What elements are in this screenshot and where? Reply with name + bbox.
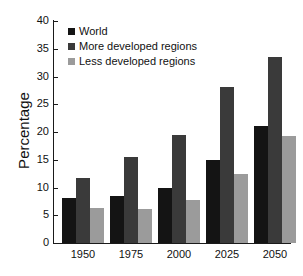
- legend-swatch-icon: [68, 43, 75, 50]
- legend-item: More developed regions: [68, 40, 197, 53]
- y-tick-label-wrap: 25: [0, 104, 49, 105]
- bar-2050-series-0: [254, 126, 268, 243]
- bar-2050-series-1: [268, 57, 282, 243]
- bar-1975-series-0: [110, 196, 124, 243]
- y-tick-label: 5: [3, 209, 49, 220]
- x-tick-label: 2050: [245, 248, 303, 260]
- y-tick-label: 25: [3, 98, 49, 109]
- y-tick-label-wrap: 20: [0, 132, 49, 133]
- legend-swatch-icon: [68, 58, 75, 65]
- bar-2025-series-0: [206, 160, 220, 243]
- y-tick-label-wrap: 10: [0, 188, 49, 189]
- y-tick-label-wrap: 35: [0, 49, 49, 50]
- bar-2000-series-0: [158, 188, 172, 244]
- y-tick-label: 35: [3, 43, 49, 54]
- y-tick-label-wrap: 40: [0, 21, 49, 22]
- bar-chart: Percentage 0510152025303540 195019752000…: [0, 0, 303, 276]
- y-tick-label: 40: [3, 15, 49, 26]
- y-tick-label: 20: [3, 126, 49, 137]
- bar-2025-series-2: [234, 174, 248, 243]
- bar-group: [206, 21, 248, 243]
- y-tick-label-wrap: 15: [0, 160, 49, 161]
- bar-1950-series-0: [62, 198, 76, 243]
- x-axis-line: [53, 243, 291, 244]
- y-tick-label: 30: [3, 71, 49, 82]
- legend-item: World: [68, 25, 197, 38]
- y-tick-label-wrap: 0: [0, 243, 49, 244]
- y-tick-label-wrap: 5: [0, 215, 49, 216]
- bar-2000-series-2: [186, 200, 200, 243]
- legend-swatch-icon: [68, 28, 75, 35]
- bar-1950-series-2: [90, 208, 104, 243]
- legend-label: Less developed regions: [79, 56, 195, 67]
- bar-2025-series-1: [220, 87, 234, 244]
- bar-1975-series-2: [138, 209, 152, 243]
- legend-label: More developed regions: [79, 41, 197, 52]
- y-tick-mark: [54, 243, 58, 244]
- legend-item: Less developed regions: [68, 55, 197, 68]
- bar-group: [254, 21, 296, 243]
- bar-1975-series-1: [124, 157, 138, 243]
- bar-1950-series-1: [76, 178, 90, 243]
- y-tick-label: 15: [3, 154, 49, 165]
- bar-2000-series-1: [172, 135, 186, 243]
- y-tick-label: 0: [3, 237, 49, 248]
- legend-label: World: [79, 26, 108, 37]
- y-tick-label: 10: [3, 182, 49, 193]
- y-tick-label-wrap: 30: [0, 77, 49, 78]
- bar-2050-series-2: [282, 136, 296, 243]
- chart-legend: WorldMore developed regionsLess develope…: [68, 25, 197, 70]
